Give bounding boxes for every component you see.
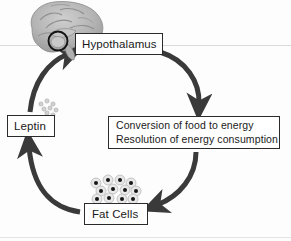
node-conversion: Conversion of food to energy Resolution … xyxy=(108,116,280,149)
node-conversion-line1: Conversion of food to energy xyxy=(116,119,254,133)
figure-canvas: Hypothalamus Conversion of food to energ… xyxy=(0,0,291,241)
node-conversion-line2: Resolution of energy consumption xyxy=(116,133,278,147)
node-hypothalamus: Hypothalamus xyxy=(75,33,163,55)
node-leptin: Leptin xyxy=(7,115,55,137)
node-leptin-label: Leptin xyxy=(8,120,46,133)
node-hypothalamus-label: Hypothalamus xyxy=(76,38,157,51)
node-fat-cells-label: Fat Cells xyxy=(85,208,138,221)
node-fat-cells: Fat Cells xyxy=(84,203,148,225)
